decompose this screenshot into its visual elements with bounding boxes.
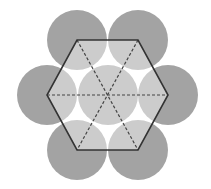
hexagonal-packing-diagram [0, 0, 211, 189]
diagram-canvas [0, 0, 211, 189]
